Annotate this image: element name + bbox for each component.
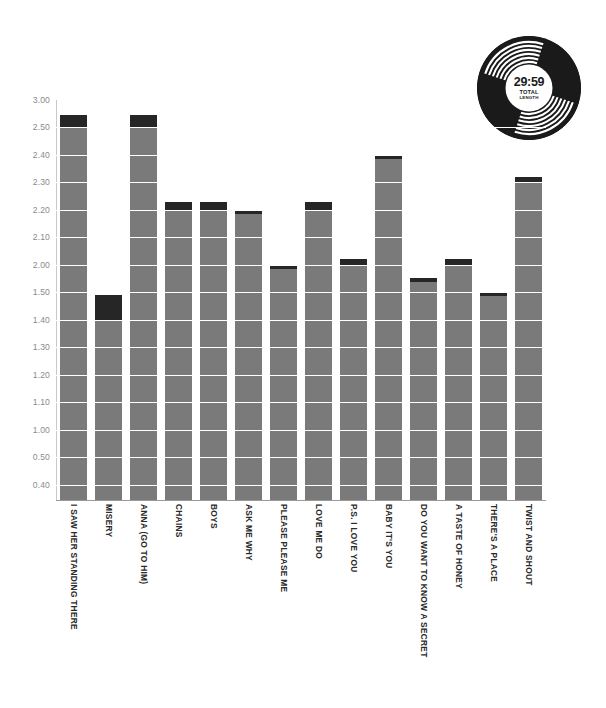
x-label-slot: ASK ME WHY xyxy=(231,504,266,684)
x-axis-label: PLEASE PLEASE ME xyxy=(279,504,289,592)
x-label-slot: LOVE ME DO xyxy=(301,504,336,684)
bar[interactable] xyxy=(445,259,472,500)
x-label-slot: MISERY xyxy=(91,504,126,684)
x-axis-label: I SAW HER STANDING THERE xyxy=(69,504,79,630)
x-axis-label: ANNA (GO TO HIM) xyxy=(139,504,149,584)
x-axis-label: DO YOU WANT TO KNOW A SECRET xyxy=(419,504,429,658)
x-axis-label: MISERY xyxy=(104,504,114,537)
bar-cap-segment xyxy=(480,292,507,296)
bar[interactable] xyxy=(375,155,402,500)
x-label-slot: PLEASE PLEASE ME xyxy=(266,504,301,684)
x-label-slot: BABY IT'S YOU xyxy=(371,504,406,684)
bar-cap-segment xyxy=(410,278,437,282)
bar-slot xyxy=(196,100,231,500)
bar[interactable] xyxy=(270,265,297,500)
bar[interactable] xyxy=(60,115,87,500)
bar-cap-segment xyxy=(95,295,122,320)
bar-cap-segment xyxy=(200,202,227,210)
bar-slot xyxy=(56,100,91,500)
x-label-slot: I SAW HER STANDING THERE xyxy=(56,504,91,684)
bar[interactable] xyxy=(515,177,542,500)
bar-slot xyxy=(91,100,126,500)
x-axis-labels: I SAW HER STANDING THEREMISERYANNA (GO T… xyxy=(56,504,546,684)
bar-cap-segment xyxy=(130,115,157,127)
y-tick-label: 2.40 xyxy=(33,150,50,160)
bar-slot xyxy=(126,100,161,500)
bar[interactable] xyxy=(200,202,227,500)
bar[interactable] xyxy=(340,259,367,500)
bar[interactable] xyxy=(410,278,437,500)
bar-cap-segment xyxy=(340,259,367,264)
y-tick-label: 2.00 xyxy=(33,260,50,270)
bar-cap-segment xyxy=(235,210,262,214)
y-tick-label: 1.00 xyxy=(33,425,50,435)
x-label-slot: BOYS xyxy=(196,504,231,684)
x-axis-label: THERE'S A PLACE xyxy=(489,504,499,582)
y-tick-label: 1.30 xyxy=(33,342,50,352)
x-axis-label: TWIST AND SHOUT xyxy=(524,504,534,586)
y-tick-label: 1.10 xyxy=(33,397,50,407)
bar-series xyxy=(56,100,546,500)
y-tick-label: 2.20 xyxy=(33,205,50,215)
bar-slot xyxy=(511,100,546,500)
bar-cap-segment xyxy=(375,155,402,159)
x-label-slot: CHAINS xyxy=(161,504,196,684)
bar-slot xyxy=(161,100,196,500)
y-tick-label: 1.20 xyxy=(33,370,50,380)
bar-slot xyxy=(231,100,266,500)
bar-slot xyxy=(476,100,511,500)
chart-page: 29:59 TOTAL LENGTH 3.002.502.402.302.202… xyxy=(0,0,606,708)
bar-cap-segment xyxy=(305,202,332,210)
x-axis-label: BOYS xyxy=(209,504,219,529)
y-tick-label: 1.40 xyxy=(33,315,50,325)
y-tick-label: 0.40 xyxy=(33,480,50,490)
bar-cap-segment xyxy=(270,265,297,269)
bar-cap-segment xyxy=(165,202,192,210)
bar[interactable] xyxy=(235,210,262,500)
bar-cap-segment xyxy=(60,115,87,127)
x-axis-line xyxy=(56,500,546,501)
bar-slot xyxy=(441,100,476,500)
bar-cap-segment xyxy=(515,177,542,182)
x-label-slot: TWIST AND SHOUT xyxy=(511,504,546,684)
bar[interactable] xyxy=(480,292,507,500)
bar-cap-segment xyxy=(445,259,472,264)
y-tick-label: 0.50 xyxy=(33,452,50,462)
x-axis-label: BABY IT'S YOU xyxy=(384,504,394,569)
x-label-slot: P.S. I LOVE YOU xyxy=(336,504,371,684)
plot-area: 3.002.502.402.302.202.102.001.501.401.30… xyxy=(56,100,546,500)
y-tick-label: 2.30 xyxy=(33,177,50,187)
x-label-slot: DO YOU WANT TO KNOW A SECRET xyxy=(406,504,441,684)
bar[interactable] xyxy=(305,202,332,500)
x-axis-label: CHAINS xyxy=(174,504,184,538)
bar-slot xyxy=(301,100,336,500)
y-tick-label: 3.00 xyxy=(33,95,50,105)
bar-slot xyxy=(371,100,406,500)
x-label-slot: ANNA (GO TO HIM) xyxy=(126,504,161,684)
x-label-slot: A TASTE OF HONEY xyxy=(441,504,476,684)
x-axis-label: LOVE ME DO xyxy=(314,504,324,559)
bar-slot xyxy=(336,100,371,500)
x-axis-label: A TASTE OF HONEY xyxy=(454,504,464,589)
bar[interactable] xyxy=(165,202,192,500)
y-tick-label: 2.50 xyxy=(33,122,50,132)
y-tick-label: 2.10 xyxy=(33,232,50,242)
total-length-value: 29:59 xyxy=(514,76,544,89)
x-axis-label: ASK ME WHY xyxy=(244,504,254,561)
x-axis-label: P.S. I LOVE YOU xyxy=(349,504,359,573)
x-label-slot: THERE'S A PLACE xyxy=(476,504,511,684)
bar-slot xyxy=(266,100,301,500)
bar-slot xyxy=(406,100,441,500)
y-tick-label: 1.50 xyxy=(33,287,50,297)
bar[interactable] xyxy=(95,295,122,500)
bar[interactable] xyxy=(130,115,157,500)
